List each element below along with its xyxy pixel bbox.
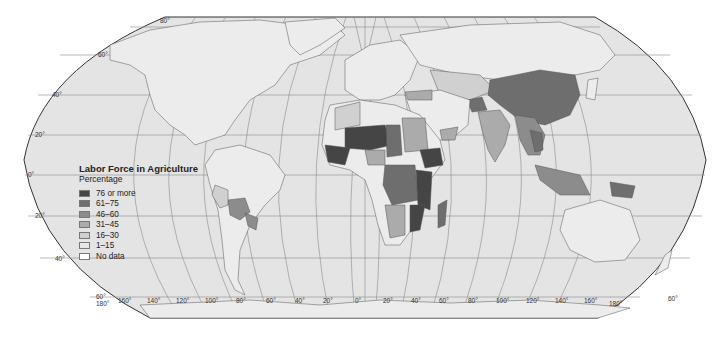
svg-text:160°: 160°: [118, 297, 132, 304]
svg-text:60°: 60°: [96, 293, 106, 300]
legend-swatch: [79, 242, 90, 249]
svg-text:60°: 60°: [668, 295, 678, 302]
svg-text:180°: 180°: [96, 300, 110, 307]
svg-text:120°: 120°: [176, 297, 190, 304]
svg-text:60°: 60°: [98, 51, 108, 58]
legend-items: 76 or more 61–75 46–60 31–45 16–30 1–15 …: [79, 188, 198, 262]
svg-text:100°: 100°: [205, 297, 219, 304]
svg-text:80°: 80°: [236, 297, 246, 304]
svg-text:60°: 60°: [439, 297, 449, 304]
svg-text:160°: 160°: [584, 297, 598, 304]
legend-subtitle: Percentage: [79, 174, 198, 185]
svg-text:0°: 0°: [28, 171, 35, 178]
svg-text:140°: 140°: [555, 297, 569, 304]
svg-text:40°: 40°: [411, 297, 421, 304]
legend-item: 16–30: [79, 230, 198, 241]
legend-swatch: [79, 200, 90, 207]
svg-text:60°: 60°: [266, 297, 276, 304]
turkey: [405, 90, 432, 100]
chad: [386, 125, 402, 157]
legend-item: 76 or more: [79, 188, 198, 199]
legend-swatch: [79, 253, 90, 260]
sudan: [402, 118, 428, 152]
nigeria: [365, 150, 385, 165]
east-africa: [416, 170, 432, 210]
svg-text:40°: 40°: [55, 255, 65, 262]
svg-text:120°: 120°: [526, 297, 540, 304]
mali-niger: [345, 125, 392, 150]
svg-text:0°: 0°: [355, 297, 362, 304]
svg-text:140°: 140°: [147, 297, 161, 304]
legend-item: 61–75: [79, 199, 198, 210]
map-legend: Labor Force in Agriculture Percentage 76…: [79, 163, 198, 262]
legend-item: 46–60: [79, 209, 198, 220]
svg-text:180°: 180°: [609, 300, 623, 307]
legend-swatch: [79, 232, 90, 239]
legend-item: 31–45: [79, 220, 198, 231]
svg-text:20°: 20°: [35, 131, 45, 138]
legend-swatch: [79, 190, 90, 197]
legend-item: No data: [79, 251, 198, 262]
svg-text:100°: 100°: [496, 297, 510, 304]
legend-title: Labor Force in Agriculture: [79, 163, 198, 174]
legend-item: 1–15: [79, 241, 198, 252]
svg-text:80°: 80°: [160, 17, 170, 24]
svg-text:20°: 20°: [383, 297, 393, 304]
legend-swatch: [79, 221, 90, 228]
svg-text:20°: 20°: [323, 297, 333, 304]
svg-text:40°: 40°: [52, 91, 62, 98]
legend-swatch: [79, 211, 90, 218]
svg-text:20°: 20°: [35, 212, 45, 219]
svg-text:40°: 40°: [295, 297, 305, 304]
svg-text:80°: 80°: [468, 297, 478, 304]
